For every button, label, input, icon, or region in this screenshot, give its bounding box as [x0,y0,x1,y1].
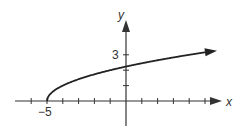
x-axis-arrow-icon [210,97,222,105]
y-tick-label-3: 3 [112,48,119,62]
x-axis-label: x [226,95,232,109]
curve-arrow-icon [204,48,217,56]
x-tick-label-neg5: −5 [38,105,52,119]
y-axis-label: y [118,8,124,22]
